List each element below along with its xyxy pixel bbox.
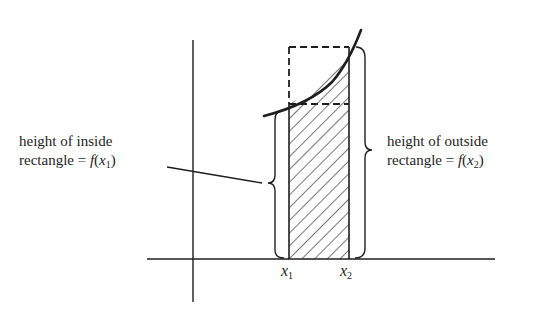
outside-label-arg: x (467, 152, 474, 168)
outside-label-prefix: rectangle = (387, 152, 458, 168)
inside-label-line1: height of inside (19, 132, 116, 151)
x2-sub: 2 (347, 270, 352, 281)
inside-label-prefix: rectangle = (19, 152, 90, 168)
outside-label-line1: height of outside (387, 132, 488, 151)
inside-label-arg: x (99, 152, 106, 168)
inside-label-sub: 1 (106, 159, 111, 170)
area-under-curve-hatch (289, 47, 349, 104)
inside-label-line2: rectangle = f(x1) (19, 151, 116, 174)
outside-rectangle-label: height of outside rectangle = f(x2) (387, 132, 488, 174)
inside-rectangle-hatch (289, 104, 349, 259)
left-brace (268, 111, 284, 258)
x1-tick-label: x1 (281, 262, 293, 281)
inside-rectangle-label: height of inside rectangle = f(x1) (19, 132, 116, 174)
inside-label-func: f (90, 152, 94, 168)
outside-label-func: f (458, 152, 462, 168)
x2-tick-label: x2 (340, 262, 352, 281)
x1-sub: 1 (288, 270, 293, 281)
outside-label-line2: rectangle = f(x2) (387, 151, 488, 174)
right-brace (355, 47, 372, 258)
outside-label-sub: 2 (474, 159, 479, 170)
left-label-leader (167, 167, 262, 183)
